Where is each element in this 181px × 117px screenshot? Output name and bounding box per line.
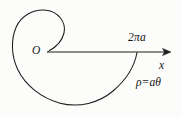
spiral-equation-label: ρ=aθ	[136, 77, 161, 89]
spiral-figure: O 2πa x ρ=aθ	[0, 0, 181, 117]
two-pi-a-label: 2πa	[128, 32, 146, 44]
spiral-diagram-canvas	[0, 0, 181, 117]
spiral-curve	[12, 10, 137, 105]
origin-label: O	[32, 45, 40, 57]
x-axis-label: x	[159, 60, 164, 72]
